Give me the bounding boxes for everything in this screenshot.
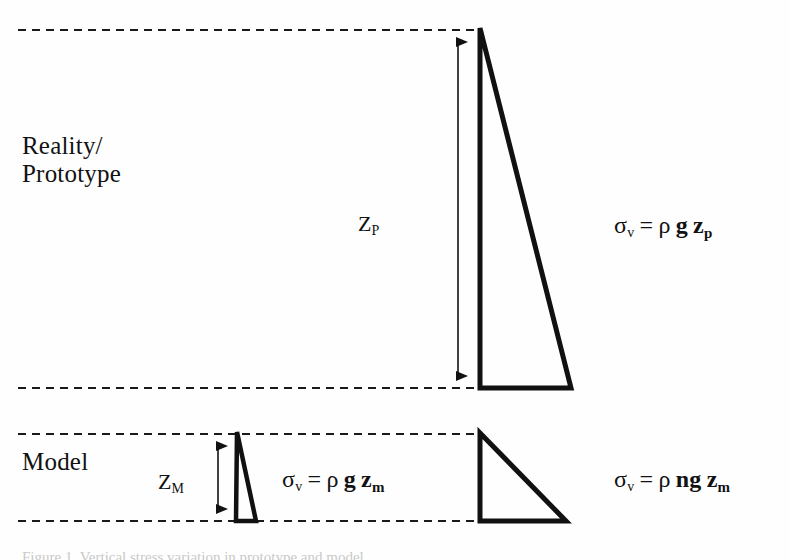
depth-label-model-symbol: Z [158,469,171,494]
figure-canvas: Reality/ Prototype ZP σv=ρgzp Model ZM σ… [0,0,790,560]
equation-prototype-depth: z [693,212,704,238]
depth-label-prototype-subscript: P [371,223,379,238]
section-label-prototype-line2: Prototype [22,160,121,188]
figure-caption: Figure 1. Vertical stress variation in p… [22,549,364,560]
equation-model-ng-density: ρ [658,466,670,492]
section-label-prototype-line1: Reality/ [22,132,121,160]
equation-prototype: σv=ρgzp [614,212,713,241]
equation-model-1g-depth-subscript: m [372,479,385,495]
equation-model-1g: σv=ρgzm [282,466,385,495]
equation-prototype-operator: = [640,212,654,238]
equation-model-ng-sigma-subscript: v [627,479,634,494]
equation-prototype-sigma: σ [614,212,627,238]
prototype-stress-triangle [480,28,571,388]
equation-model-1g-gravity: g [344,466,356,492]
equation-model-ng-depth-subscript: m [718,479,731,495]
equation-model-1g-density: ρ [326,466,338,492]
equation-model-1g-depth: z [361,466,372,492]
equation-prototype-gravity: g [676,212,688,238]
section-label-model: Model [22,448,88,476]
depth-label-model: ZM [158,470,184,497]
dashed-reference-lines [18,30,568,521]
equation-model-ng: σv=ρngzm [614,466,730,495]
depth-label-prototype: ZP [358,212,379,239]
equation-prototype-sigma-subscript: v [627,225,634,240]
equation-model-ng-operator: = [640,466,654,492]
equation-model-1g-sigma: σ [282,466,295,492]
section-label-prototype: Reality/ Prototype [22,132,121,188]
equation-model-ng-sigma: σ [614,466,627,492]
model-stress-triangle-1g [236,432,256,521]
depth-label-model-subscript: M [171,481,184,496]
equation-model-ng-gravity: ng [676,466,702,492]
depth-label-prototype-symbol: Z [358,211,371,236]
equation-prototype-density: ρ [658,212,670,238]
model-stress-triangle-ng [480,433,566,521]
equation-model-ng-depth: z [707,466,718,492]
equation-prototype-depth-subscript: p [704,225,713,241]
equation-model-1g-operator: = [308,466,322,492]
equation-model-1g-sigma-subscript: v [295,479,302,494]
